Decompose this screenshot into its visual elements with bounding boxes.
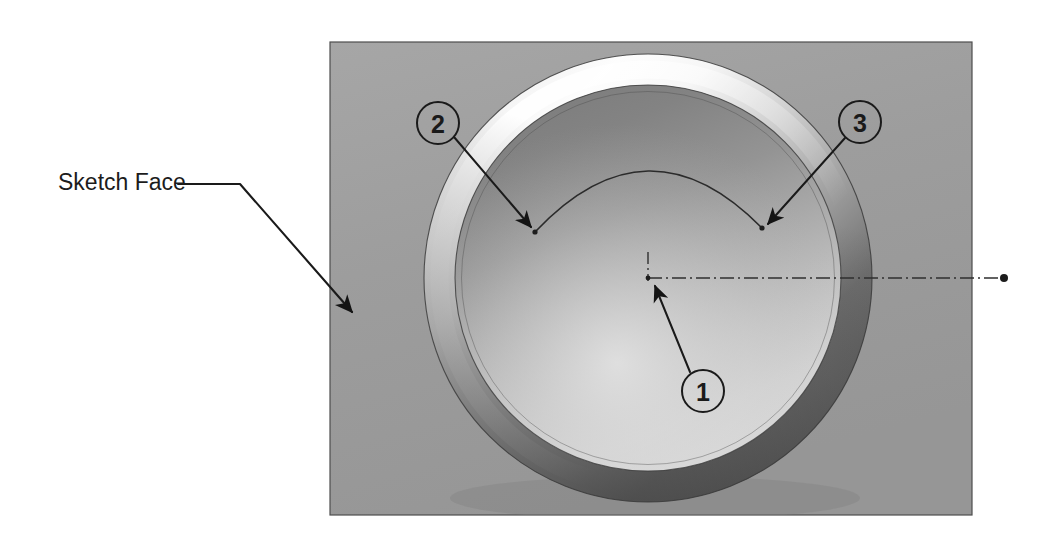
illustration-canvas: Sketch Face 1 2 3	[0, 0, 1043, 546]
sketch-face-label: Sketch Face	[58, 169, 186, 195]
centerline-endpoint-dot	[1000, 274, 1008, 282]
sketch-face-leader-line	[178, 184, 352, 312]
callout-3-label: 3	[853, 109, 867, 137]
callout-2-label: 2	[431, 110, 445, 138]
arc-endpoint-left-dot	[532, 229, 537, 234]
arc-endpoint-right-dot	[759, 225, 764, 230]
arc-center-point	[646, 276, 651, 281]
sketch-face-leader: Sketch Face	[58, 169, 352, 312]
callout-1-label: 1	[696, 378, 710, 406]
cad-illustration-svg: Sketch Face 1 2 3	[0, 0, 1043, 546]
